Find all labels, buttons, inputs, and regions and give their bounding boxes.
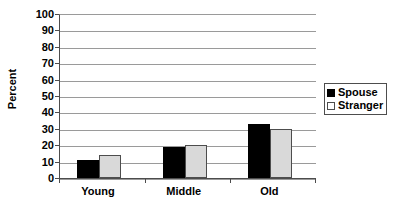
x-axis-tick-marks bbox=[59, 179, 316, 184]
legend-swatch-spouse-icon bbox=[327, 89, 335, 97]
y-axis-tick-label: 50 bbox=[42, 91, 54, 102]
bars-layer bbox=[60, 15, 316, 178]
bar-chart: Percent 1009080706050403020100 YoungMidd… bbox=[0, 0, 403, 207]
y-axis-tick-label: 40 bbox=[42, 107, 54, 118]
y-axis-title-label: Percent bbox=[6, 69, 18, 109]
y-axis-tick-label: 60 bbox=[42, 74, 54, 85]
plot-area bbox=[59, 14, 316, 178]
y-axis-tick-label: 20 bbox=[42, 140, 54, 151]
x-axis-tick-mark bbox=[145, 179, 146, 183]
x-axis-tick-mark bbox=[315, 179, 316, 183]
x-axis-tick-label-old: Old bbox=[260, 185, 278, 198]
bar-young-stranger bbox=[99, 155, 121, 178]
x-axis-tick-label-young: Young bbox=[81, 185, 114, 198]
legend: SpouseStranger bbox=[324, 83, 387, 115]
x-axis-tick-mark bbox=[59, 179, 60, 183]
bar-group-middle bbox=[146, 15, 232, 178]
y-axis-tick-label: 90 bbox=[42, 25, 54, 36]
x-axis-tick-label-middle: Middle bbox=[166, 185, 201, 198]
y-axis-tick-labels: 1009080706050403020100 bbox=[24, 14, 58, 178]
legend-label: Spouse bbox=[338, 87, 378, 98]
y-axis-tick-label: 100 bbox=[36, 9, 54, 20]
y-axis-tick-label: 30 bbox=[42, 123, 54, 134]
y-axis-tick-label: 10 bbox=[42, 156, 54, 167]
bar-middle-stranger bbox=[185, 145, 207, 178]
bar-old-spouse bbox=[248, 124, 270, 178]
legend-entry-spouse[interactable]: Spouse bbox=[327, 86, 383, 99]
bar-group-old bbox=[231, 15, 317, 178]
bar-young-spouse bbox=[77, 160, 99, 178]
x-axis-tick-labels: YoungMiddleOld bbox=[59, 185, 316, 203]
y-axis-title: Percent bbox=[0, 0, 24, 178]
y-axis-tick-label: 80 bbox=[42, 41, 54, 52]
legend-label: Stranger bbox=[338, 100, 383, 111]
bar-group-young bbox=[60, 15, 146, 178]
bar-middle-spouse bbox=[163, 147, 185, 178]
legend-swatch-stranger-icon bbox=[327, 102, 335, 110]
legend-entry-stranger[interactable]: Stranger bbox=[327, 99, 383, 112]
y-axis-tick-label: 70 bbox=[42, 58, 54, 69]
x-axis-tick-mark bbox=[230, 179, 231, 183]
bar-old-stranger bbox=[270, 129, 292, 178]
